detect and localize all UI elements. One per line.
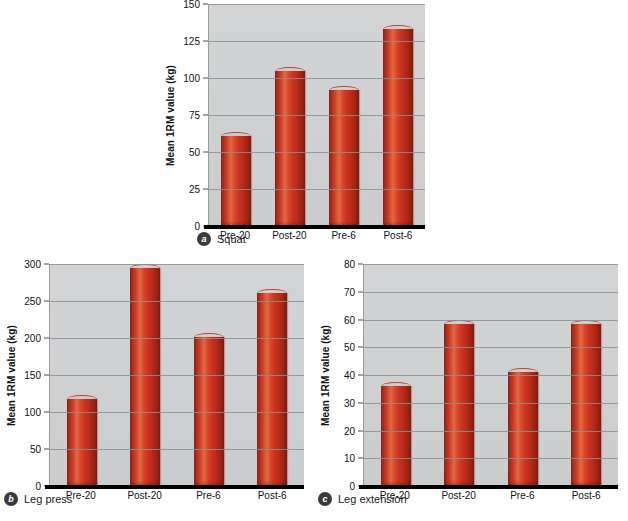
gridline [50,301,304,302]
y-tick-label: 80 [344,259,355,270]
gridline [364,264,618,265]
gridline [209,152,425,153]
caption-leg-press: b Leg press [4,492,72,506]
y-tick-label: 150 [183,0,200,10]
gridline [50,449,304,450]
y-axis-title-label: Mean 1RM value (kg) [6,325,17,426]
bar-post-6 [383,29,413,226]
y-tick-label: 250 [24,295,41,306]
gridline [364,431,618,432]
plot-region-squat [208,4,425,226]
caption-label-leg-press: Leg press [24,493,72,505]
y-tick-label: 100 [24,406,41,417]
caption-leg-extension: c Leg extension [318,492,407,506]
bar-pre-6 [508,372,538,486]
gridline [50,412,304,413]
y-tick-label: 300 [24,259,41,270]
x-tick-label: Post-20 [427,490,491,501]
y-axis-title-label: Mean 1RM value (kg) [320,325,331,426]
chart-panel-leg-extension: Mean 1RM value (kg) 01020304050607080 Pr… [318,264,618,516]
caption-label-leg-extension: Leg extension [338,493,407,505]
gridline [364,320,618,321]
x-tick-label: Post-6 [554,490,618,501]
y-tick-label: 50 [344,342,355,353]
x-tick-label: Post-20 [113,490,177,501]
bar-pre-20 [381,386,411,486]
panel-badge-a: a [197,232,211,246]
y-tick-label: 100 [183,72,200,83]
gridline [50,264,304,265]
gridline [50,338,304,339]
caption-label-squat: Squat [217,233,246,245]
x-tick-label: Post-20 [262,230,316,241]
y-tick-label: 60 [344,314,355,325]
gridline [364,458,618,459]
x-tick-label: Post-6 [240,490,304,501]
gridline [50,375,304,376]
plot-region-leg-press [49,264,304,486]
y-axis-title-leg-press: Mean 1RM value (kg) [4,264,19,486]
y-tick-label: 125 [183,35,200,46]
y-tick-label: 200 [24,332,41,343]
caption-squat: a Squat [197,232,246,246]
x-tick-label: Pre-6 [491,490,555,501]
y-axis-ticks-leg-press: 050100150200250300 [19,264,45,486]
x-tick-label: Pre-6 [177,490,241,501]
y-tick-label: 40 [344,370,355,381]
y-tick-label: 75 [189,110,200,121]
y-tick-label: 150 [24,370,41,381]
gridline [209,4,425,5]
panel-badge-b: b [4,492,18,506]
y-axis-title-leg-extension: Mean 1RM value (kg) [318,264,333,486]
chart-panel-squat: Mean 1RM value (kg) 0255075100125150 Pre… [163,4,425,256]
bar-pre-6 [329,90,359,226]
bar-post-6 [257,293,287,486]
y-tick-label: 70 [344,286,355,297]
gridline [209,78,425,79]
gridline [364,347,618,348]
x-axis-categories-leg-press: Pre-20Post-20Pre-6Post-6 [49,486,304,506]
gridline [364,375,618,376]
chart-panel-leg-press: Mean 1RM value (kg) 050100150200250300 P… [4,264,304,516]
y-axis-title-squat: Mean 1RM value (kg) [163,4,178,226]
y-tick-label: 30 [344,397,355,408]
panel-badge-c: c [318,492,332,506]
y-axis-ticks-leg-extension: 01020304050607080 [333,264,359,486]
gridline [209,41,425,42]
bar-post-20 [275,71,305,226]
gridline [364,403,618,404]
y-tick-label: 20 [344,425,355,436]
gridline [209,115,425,116]
y-tick-label: 25 [189,184,200,195]
y-tick-label: 0 [35,481,41,492]
y-axis-title-label: Mean 1RM value (kg) [165,65,176,166]
x-tick-label: Post-6 [371,230,425,241]
chart-area-leg-press: Mean 1RM value (kg) 050100150200250300 P… [4,264,304,486]
y-tick-label: 50 [30,444,41,455]
y-tick-label: 10 [344,453,355,464]
y-axis-ticks-squat: 0255075100125150 [178,4,204,226]
x-tick-label: Pre-6 [317,230,371,241]
bar-pre-20 [221,136,251,226]
gridline [209,189,425,190]
y-tick-label: 0 [194,221,200,232]
chart-area-leg-extension: Mean 1RM value (kg) 01020304050607080 Pr… [318,264,618,486]
y-tick-label: 0 [349,481,355,492]
chart-area-squat: Mean 1RM value (kg) 0255075100125150 Pre… [163,4,425,226]
plot-region-leg-extension [363,264,618,486]
gridline [364,292,618,293]
y-tick-label: 50 [189,146,200,157]
